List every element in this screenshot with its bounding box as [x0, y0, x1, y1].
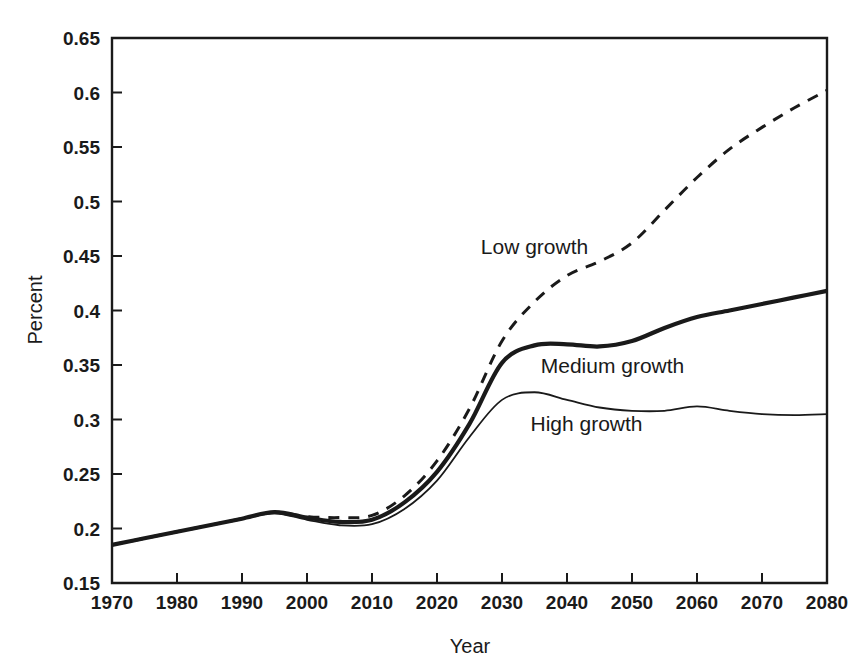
x-tick-label-2060: 2060: [676, 592, 718, 613]
series-line-medium-growth: [112, 291, 827, 545]
x-axis-title: Year: [450, 635, 491, 657]
data-series-group: [112, 90, 827, 545]
x-axis-tick-labels: 1970198019902000201020202030204020502060…: [91, 592, 848, 613]
x-axis-ticks: [177, 573, 762, 583]
chart-figure: 1970198019902000201020202030204020502060…: [0, 0, 863, 668]
x-tick-label-2000: 2000: [286, 592, 328, 613]
y-tick-label-0.25: 0.25: [63, 464, 100, 485]
y-tick-label-0.35: 0.35: [63, 355, 100, 376]
x-tick-label-1970: 1970: [91, 592, 133, 613]
y-tick-label-0.65: 0.65: [63, 28, 100, 49]
y-tick-label-0.5: 0.5: [74, 192, 101, 213]
series-label-low-growth: Low growth: [481, 235, 588, 258]
x-tick-label-1980: 1980: [156, 592, 198, 613]
x-tick-label-2020: 2020: [416, 592, 458, 613]
x-tick-label-2050: 2050: [611, 592, 653, 613]
y-axis-ticks: [112, 93, 122, 529]
series-inline-labels: Low growthMedium growthHigh growth: [481, 235, 684, 436]
y-axis-title: Percent: [24, 275, 46, 344]
line-chart-canvas: 1970198019902000201020202030204020502060…: [0, 0, 863, 668]
y-tick-label-0.2: 0.2: [74, 519, 100, 540]
y-tick-label-0.3: 0.3: [74, 410, 100, 431]
x-tick-label-2030: 2030: [481, 592, 523, 613]
series-line-low-growth: [112, 90, 827, 545]
x-tick-label-1990: 1990: [221, 592, 263, 613]
x-tick-label-2040: 2040: [546, 592, 588, 613]
y-axis-tick-labels: 0.150.20.250.30.350.40.450.50.550.60.65: [63, 28, 100, 594]
series-label-high-growth: High growth: [530, 412, 642, 435]
y-tick-label-0.45: 0.45: [63, 246, 100, 267]
y-tick-label-0.15: 0.15: [63, 573, 100, 594]
y-tick-label-0.55: 0.55: [63, 137, 100, 158]
series-label-medium-growth: Medium growth: [541, 354, 685, 377]
x-tick-label-2070: 2070: [741, 592, 783, 613]
y-tick-label-0.6: 0.6: [74, 83, 100, 104]
x-tick-label-2010: 2010: [351, 592, 393, 613]
x-tick-label-2080: 2080: [806, 592, 848, 613]
y-tick-label-0.4: 0.4: [74, 301, 101, 322]
